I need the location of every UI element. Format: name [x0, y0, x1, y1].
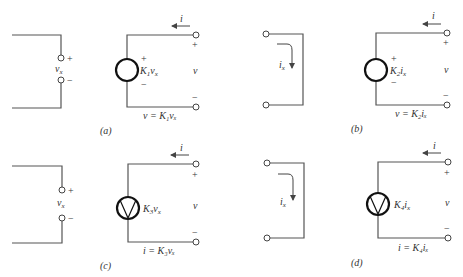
terminal-top [263, 31, 269, 37]
source-minus: − [391, 77, 397, 88]
source-plus: + [391, 53, 397, 64]
input-short-ix-b: ix [263, 31, 303, 108]
equation: v = K₁vₓ [143, 110, 177, 121]
terminal-plus [59, 187, 65, 193]
output-minus: − [444, 223, 450, 234]
terminal-plus [58, 55, 64, 61]
terminal-top [444, 30, 450, 36]
terminal-top [264, 160, 270, 166]
output-circuit-c: K3vx i + v − i = K₃vₓ [117, 142, 199, 256]
caption-b: (b) [351, 123, 363, 135]
caption-a: (a) [100, 125, 112, 137]
current-label: i [433, 140, 436, 151]
source-minus: − [141, 79, 147, 90]
terminal-bottom [193, 104, 199, 110]
plus-sign: + [68, 185, 74, 196]
terminal-bottom [444, 102, 450, 108]
panel-c: + vx − K3vx i + v − i = K₃vₓ (c) [12, 142, 199, 272]
source-label: K4ix [393, 199, 411, 212]
current-source-icon [117, 197, 139, 219]
terminal-bottom [193, 239, 199, 245]
terminal-bottom [445, 235, 451, 241]
output-plus: + [192, 169, 198, 180]
terminal-bottom [264, 235, 270, 241]
equation: v = K₂iₓ [395, 108, 427, 119]
terminal-bottom [263, 102, 269, 108]
source-label: K1vx [139, 65, 159, 78]
panel-a: + vx − + K1vx − i + v − v = K₁vₓ (a) [12, 13, 199, 137]
panel-d: ix K4ix i + v − i = K₄iₓ (d) [264, 140, 451, 269]
input-short-ix-d: ix [264, 160, 304, 241]
current-source-icon [367, 193, 389, 215]
current-label: i [180, 142, 183, 153]
voltage-source-icon [365, 59, 387, 81]
voltage-source-icon [116, 59, 138, 81]
output-minus: − [192, 227, 198, 238]
ix-label: ix [280, 196, 287, 209]
vx-label: vx [55, 63, 63, 76]
current-label: i [432, 10, 435, 21]
input-port-vx-a: + vx − [12, 35, 73, 108]
plus-sign: + [67, 53, 73, 64]
output-plus: + [443, 37, 449, 48]
minus-sign: − [68, 213, 74, 224]
output-minus: − [443, 90, 449, 101]
output-circuit-a: + K1vx − i + v − v = K₁vₓ [116, 13, 199, 121]
ix-label: ix [279, 59, 286, 72]
output-minus: − [192, 92, 198, 103]
output-circuit-d: K4ix i + v − i = K₄iₓ [367, 140, 451, 253]
output-voltage-label: v [193, 65, 198, 76]
output-plus: + [444, 167, 450, 178]
minus-sign: − [67, 75, 73, 86]
equation: i = K₃vₓ [143, 245, 175, 256]
source-plus: + [141, 53, 147, 64]
panel-b: ix + K2ix − i + v − v = K₂iₓ (b) [263, 10, 450, 135]
output-voltage-label: v [444, 64, 449, 75]
vx-label: vx [57, 197, 65, 210]
terminal-top [193, 32, 199, 38]
terminal-top [445, 159, 451, 165]
terminal-minus [59, 215, 65, 221]
output-voltage-label: v [445, 197, 450, 208]
output-plus: + [192, 39, 198, 50]
output-circuit-b: + K2ix − i + v − v = K₂iₓ [365, 10, 450, 119]
terminal-top [193, 161, 199, 167]
caption-c: (c) [100, 260, 112, 272]
output-voltage-label: v [193, 200, 198, 211]
source-label: K3vx [142, 203, 162, 216]
input-port-vx-c: + vx − [12, 166, 74, 243]
equation: i = K₄iₓ [398, 242, 428, 253]
terminal-minus [58, 77, 64, 83]
current-label: i [180, 13, 183, 24]
caption-d: (d) [351, 257, 363, 269]
